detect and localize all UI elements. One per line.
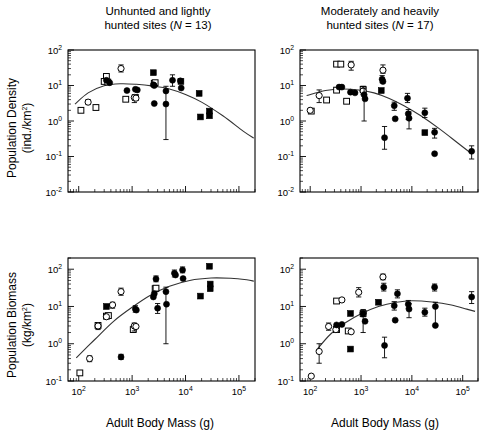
tick-exponent: 1 <box>290 300 294 307</box>
ylabel-line-1: Population Density <box>5 78 19 178</box>
title-line-1: Unhunted and lightly <box>106 5 211 17</box>
tick-base: 10 <box>354 386 365 397</box>
marker-open-circle <box>133 95 139 101</box>
marker-open-circle <box>308 373 314 379</box>
tick-exponent: 0 <box>58 337 62 344</box>
tick-exponent: 2 <box>314 385 318 392</box>
marker-open-square <box>93 105 99 111</box>
title-line-2: hunted sites (N = 13) <box>104 19 211 31</box>
tick-base: 10 <box>280 301 291 312</box>
tick-base: 10 <box>45 376 56 387</box>
marker-filled-square <box>348 346 354 352</box>
tick-exponent: -1 <box>288 150 294 157</box>
tick-base: 10 <box>277 376 288 387</box>
figure-background <box>0 0 485 431</box>
marker-filled-circle <box>180 276 186 282</box>
marker-filled-circle <box>422 309 428 315</box>
title-line-1: Moderately and heavily <box>321 5 440 17</box>
tick-base: 10 <box>45 151 56 162</box>
marker-filled-circle <box>432 303 438 309</box>
marker-filled-circle <box>432 129 438 135</box>
tick-base: 10 <box>280 264 291 275</box>
marker-filled-square <box>207 113 213 119</box>
tick-exponent: 1 <box>290 79 294 86</box>
marker-filled-circle <box>382 135 388 141</box>
xlabel-left: Adult Body Mass (g) <box>106 416 214 430</box>
marker-open-circle <box>109 302 115 308</box>
marker-filled-circle <box>352 90 358 96</box>
marker-filled-square <box>104 304 110 310</box>
marker-filled-circle <box>381 284 387 290</box>
marker-open-circle <box>118 289 124 295</box>
marker-filled-circle <box>469 148 475 154</box>
title-line-2: hunted sites (N = 17) <box>326 19 433 31</box>
marker-filled-circle <box>391 303 397 309</box>
tick-exponent: 3 <box>364 385 368 392</box>
marker-filled-circle <box>339 321 345 327</box>
tick-base: 10 <box>125 386 136 397</box>
tick-base: 10 <box>303 386 314 397</box>
marker-open-circle <box>95 323 101 329</box>
marker-filled-square <box>178 79 184 85</box>
marker-open-circle <box>339 297 345 303</box>
marker-filled-circle <box>124 88 130 94</box>
marker-filled-square <box>378 88 384 94</box>
ylabel-unit-close: ) <box>20 103 34 107</box>
title-pre: hunted sites ( <box>326 19 395 31</box>
marker-filled-circle <box>394 291 400 297</box>
ylabel-line-1: Population Biomass <box>5 272 19 378</box>
marker-open-square <box>338 61 344 67</box>
marker-filled-circle <box>153 276 159 282</box>
title-post: = 13) <box>182 19 212 31</box>
tick-base: 10 <box>45 187 56 198</box>
marker-filled-circle <box>406 306 412 312</box>
tick-exponent: 4 <box>189 385 193 392</box>
marker-filled-circle <box>180 267 186 273</box>
tick-exponent: 5 <box>242 385 246 392</box>
marker-filled-circle <box>360 310 366 316</box>
marker-filled-square <box>196 90 202 96</box>
marker-open-circle <box>133 323 139 329</box>
tick-exponent: 3 <box>136 385 140 392</box>
marker-open-square <box>123 96 129 102</box>
marker-open-square <box>77 370 83 376</box>
marker-filled-circle <box>432 284 438 290</box>
tick-exponent: 2 <box>290 263 294 270</box>
marker-filled-circle <box>382 342 388 348</box>
tick-exponent: -1 <box>56 375 62 382</box>
marker-filled-circle <box>163 88 169 94</box>
marker-open-square <box>344 98 350 104</box>
marker-filled-circle <box>339 84 345 90</box>
tick-exponent: 2 <box>58 263 62 270</box>
tick-exponent: 0 <box>290 115 294 122</box>
marker-filled-circle <box>173 272 179 278</box>
tick-exponent: -1 <box>288 375 294 382</box>
tick-base: 10 <box>48 116 59 127</box>
tick-exponent: 1 <box>58 79 62 86</box>
four-panel-scatter-figure: Unhunted and lightly hunted sites (N = 1… <box>0 0 485 431</box>
marker-filled-circle <box>151 83 157 89</box>
tick-base: 10 <box>48 45 59 56</box>
tick-base: 10 <box>48 301 59 312</box>
marker-open-circle <box>325 323 331 329</box>
marker-filled-circle <box>432 151 438 157</box>
marker-filled-circle <box>118 354 124 360</box>
marker-filled-circle <box>392 116 398 122</box>
marker-open-square <box>78 107 84 113</box>
marker-open-circle <box>85 99 91 105</box>
marker-filled-circle <box>155 305 161 311</box>
marker-open-circle <box>307 107 313 113</box>
marker-filled-circle <box>107 80 113 86</box>
marker-filled-square <box>422 130 428 136</box>
marker-filled-circle <box>133 307 139 313</box>
marker-open-circle <box>118 65 124 71</box>
marker-open-circle <box>348 62 354 68</box>
marker-filled-circle <box>163 101 169 107</box>
tick-exponent: 0 <box>58 115 62 122</box>
tick-base: 10 <box>48 80 59 91</box>
figure-container: Unhunted and lightly hunted sites (N = 1… <box>0 0 485 431</box>
marker-open-square <box>324 97 330 103</box>
tick-exponent: -2 <box>288 186 294 193</box>
tick-exponent: -2 <box>56 186 62 193</box>
marker-filled-circle <box>392 317 398 323</box>
